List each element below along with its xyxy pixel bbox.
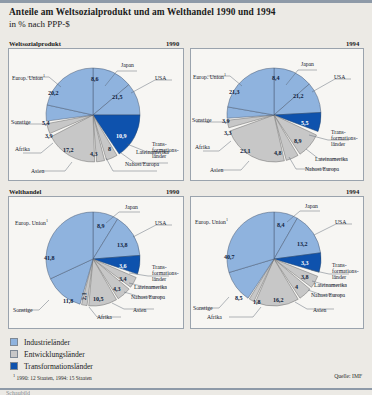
legend-item-transformationslaender: Transformationsländer — [10, 360, 93, 372]
legend-swatch-industrielaender — [10, 338, 18, 346]
value-europ-union-1: 20,2 — [48, 90, 59, 96]
chart-panel-welthandel-1990: Japan USA Trans-formations-länder Latein… — [8, 196, 184, 329]
top-rule — [0, 0, 372, 3]
section-year-welthandel-1994: 1994 — [346, 188, 359, 195]
value-lateinamerika-2: 8,9 — [294, 138, 302, 144]
section-year-welthandel-1990: 1990 — [166, 188, 179, 195]
chart-legend: Industrieländer Entwicklungsländer Trans… — [10, 336, 93, 372]
label-nahost-europa-2: Nahost/Europa — [305, 166, 339, 172]
label-europ-union-4: Europ. Union1 — [195, 217, 228, 225]
label-usa-4: USA — [335, 219, 346, 225]
label-afrika-1: Afrika — [15, 146, 30, 152]
source-note: Quelle: IMF — [334, 373, 362, 379]
label-usa-3: USA — [155, 220, 166, 226]
value-lateinamerika-1: 8 — [108, 146, 111, 152]
value-afrika-2: 3,3 — [224, 130, 232, 136]
value-transformationslaender-4: 3,3 — [301, 260, 309, 266]
infographic-page: Anteile am Weltsozialprodukt und am Welt… — [0, 0, 372, 395]
label-lateinamerika-2: Lateinamerika — [315, 156, 348, 162]
value-afrika-3: 2,1 — [81, 292, 87, 300]
value-sonstige-4: 8,5 — [235, 295, 243, 301]
legend-label-industrielaender: Industrieländer — [24, 338, 70, 347]
value-lateinamerika-4: 3,8 — [301, 274, 309, 280]
label-nahost-europa-4: Nahost/Europa — [311, 292, 345, 298]
label-europ-union-1: Europ. Union1 — [12, 73, 45, 81]
footnote-text: 1990: 12 Staaten, 1994: 15 Staaten — [17, 375, 92, 381]
value-japan-4: 8,4 — [277, 222, 285, 228]
label-asien-2: Asien — [210, 167, 223, 173]
page-subtitle: in % nach PPP-$ — [9, 19, 365, 30]
value-asien-3: 10,5 — [93, 296, 104, 302]
section-label-welthandel: Welthandel — [9, 188, 41, 195]
bottom-rule — [0, 388, 372, 390]
footnote: 1 1990: 12 Staaten, 1994: 15 Staaten — [13, 373, 92, 381]
label-japan-2: Japan — [301, 61, 314, 67]
value-nahost-europa-2: 4,8 — [274, 150, 282, 156]
label-usa-1: USA — [155, 75, 166, 81]
label-sonstige-1: Sonstige — [11, 119, 31, 125]
label-lateinamerika-3: Lateinamerika — [134, 284, 167, 290]
value-sonstige-1: 5,4 — [42, 120, 50, 126]
section-year-weltsozialprodukt-1994: 1994 — [346, 40, 359, 47]
label-japan-3: Japan — [125, 204, 138, 210]
value-nahost-europa-1: 4,3 — [90, 151, 98, 157]
label-europ-union-2: Europ. Union1 — [193, 72, 226, 80]
value-nahost-europa-3: 4,3 — [113, 286, 121, 292]
value-transformationslaender-2: 5,5 — [301, 120, 309, 126]
chart-panel-welthandel-1994: Japan USA Trans-formations-länder Latein… — [190, 196, 364, 329]
label-transformationslaender-2: Trans-formations-länder — [331, 129, 361, 148]
value-usa-1: 21,5 — [112, 94, 123, 100]
legend-item-entwicklungslaender: Entwicklungsländer — [10, 348, 93, 360]
value-usa-3: 13,8 — [117, 242, 128, 248]
label-afrika-4: Afrika — [207, 314, 222, 320]
label-afrika-3: Afrika — [97, 314, 112, 320]
legend-item-industrielaender: Industrieländer — [10, 336, 93, 348]
value-usa-4: 13,2 — [297, 241, 308, 247]
value-europ-union-2: 21,3 — [229, 89, 240, 95]
footnote-marker: 1 — [13, 373, 15, 378]
pie-wrap-3 — [9, 197, 183, 328]
value-europ-union-4: 40,7 — [224, 254, 235, 260]
value-afrika-4: 1,8 — [253, 299, 261, 305]
legend-swatch-transformationslaender — [10, 362, 18, 370]
label-lateinamerika-1: Lateinamerika — [136, 149, 169, 155]
label-transformationslaender-3: Trans-formations-länder — [152, 264, 182, 283]
label-asien-3: Asien — [133, 307, 146, 313]
label-sonstige-2: Sonstige — [192, 117, 212, 123]
value-asien-1: 17,2 — [63, 147, 74, 153]
value-transformationslaender-1: 10,9 — [116, 133, 127, 139]
value-europ-union-3: 41,8 — [44, 255, 55, 261]
chart-panel-weltsozialprodukt-1990: Japan USA Trans-formations-länder Latein… — [8, 48, 184, 181]
value-usa-2: 21,2 — [293, 93, 304, 99]
value-sonstige-3: 11,8 — [63, 298, 73, 304]
value-sonstige-2: 3,9 — [222, 118, 230, 124]
label-japan-1: Japan — [121, 62, 134, 68]
label-afrika-2: Afrika — [195, 144, 210, 150]
label-nahost-europa-3: Nahost/Europa — [131, 294, 165, 300]
label-usa-2: USA — [334, 74, 345, 80]
value-asien-2: 23,1 — [240, 148, 251, 154]
label-nahost-europa-1: Nahost/Europa — [125, 161, 159, 167]
section-year-weltsozialprodukt-1990: 1990 — [166, 40, 179, 47]
label-sonstige-4: Sonstige — [193, 305, 213, 311]
value-japan-1: 8,6 — [91, 76, 99, 82]
value-transformationslaender-3: 3,6 — [119, 263, 127, 269]
legend-swatch-entwicklungslaender — [10, 350, 18, 358]
value-afrika-1: 3,9 — [45, 133, 53, 139]
label-asien-4: Asien — [313, 307, 326, 313]
label-japan-4: Japan — [305, 203, 318, 209]
label-transformationslaender-4: Trans-formations-länder — [332, 262, 362, 281]
chart-panel-weltsozialprodukt-1994: Japan USA Trans-formations-länder Latein… — [190, 48, 364, 181]
value-japan-2: 8,4 — [272, 75, 280, 81]
value-lateinamerika-3: 3,4 — [119, 276, 127, 282]
section-label-weltsozialprodukt: Weltsozialprodukt — [9, 40, 61, 47]
value-japan-3: 8,9 — [97, 223, 105, 229]
page-title: Anteile am Weltsozialprodukt und am Welt… — [9, 7, 365, 18]
legend-label-entwicklungslaender: Entwicklungsländer — [24, 350, 85, 359]
legend-label-transformationslaender: Transformationsländer — [24, 362, 93, 371]
bottom-caption-stub: Schaubild — [6, 390, 30, 395]
label-asien-1: Asien — [31, 168, 44, 174]
label-europ-union-3: Europ. Union1 — [15, 218, 48, 226]
value-asien-4: 16,2 — [273, 297, 284, 303]
label-lateinamerika-4: Lateinamerika — [314, 282, 347, 288]
